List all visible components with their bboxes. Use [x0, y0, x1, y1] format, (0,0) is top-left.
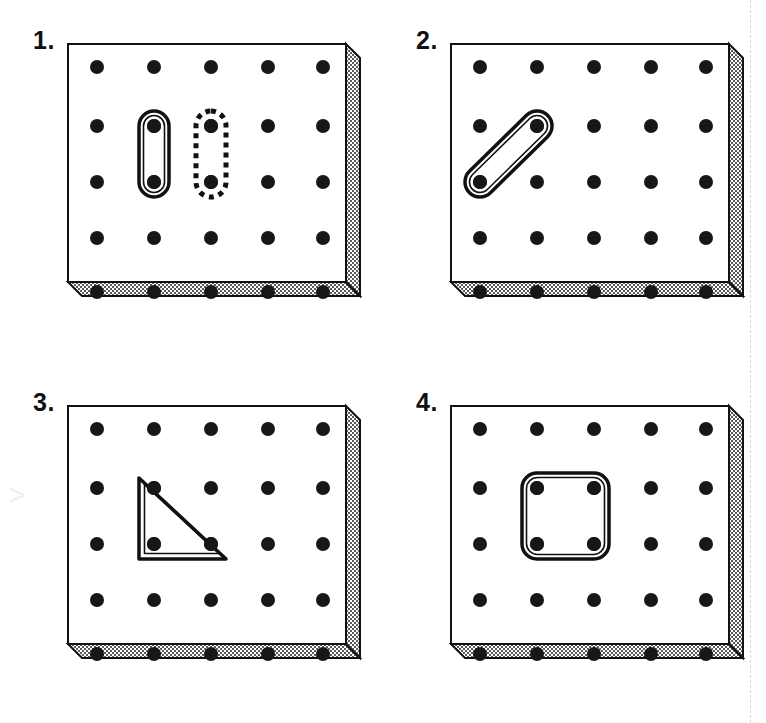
board-face — [451, 406, 729, 644]
panel-4-board — [447, 392, 747, 682]
board-right-edge — [346, 44, 360, 296]
geoboard-panel-4: 4. — [383, 362, 766, 723]
geoboard-panel-2: 2. — [383, 0, 766, 361]
board-face — [68, 44, 346, 282]
panel-3-board-svg — [64, 392, 364, 682]
panel-1-label: 1. — [33, 28, 55, 53]
panel-3-board — [64, 392, 364, 682]
panel-4-label: 4. — [416, 390, 438, 415]
panel-2-board-svg — [447, 30, 747, 320]
worksheet-sheet: 1. — [0, 0, 766, 723]
page-fold-guide — [750, 0, 751, 723]
panel-2-label: 2. — [416, 28, 438, 53]
panel-1-board-svg — [64, 30, 364, 320]
geoboard-panel-3: 3. — [0, 362, 383, 723]
panel-4-board-svg — [447, 392, 747, 682]
board-face — [68, 406, 346, 644]
scan-watermark-chevron-icon: > — [8, 478, 42, 512]
panel-3-label: 3. — [33, 390, 55, 415]
panel-1-board — [64, 30, 364, 320]
geoboard-panel-1: 1. — [0, 0, 383, 361]
board-right-edge — [346, 406, 360, 658]
board-right-edge — [729, 44, 743, 296]
board-right-edge — [729, 406, 743, 658]
panel-2-board — [447, 30, 747, 320]
board-face — [451, 44, 729, 282]
